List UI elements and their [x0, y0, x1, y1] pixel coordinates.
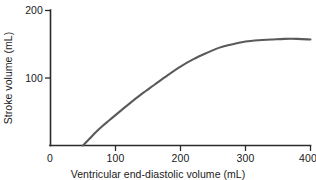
x-tick-label-200: 200	[172, 153, 190, 164]
y-tick-label-100: 100	[25, 73, 43, 84]
x-tick-label-300: 300	[237, 153, 255, 164]
chart-figure: 200 100 0 100 200 300 400 Ventricular en…	[0, 0, 316, 180]
x-tick-label-400: 400	[299, 153, 316, 164]
y-tick-label-200: 200	[25, 5, 43, 16]
x-tick-label-100: 100	[107, 153, 125, 164]
y-axis-title: Stroke volume (mL)	[3, 32, 14, 125]
x-tick-label-0: 0	[47, 153, 53, 164]
frank-starling-curve	[83, 39, 311, 146]
x-axis-title: Ventricular end-diastolic volume (mL)	[0, 169, 316, 180]
